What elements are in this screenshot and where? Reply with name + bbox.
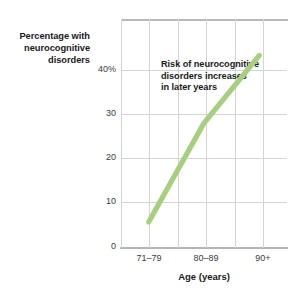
chart-annotation: Risk of neurocognitive disorders increas… (161, 59, 259, 94)
y-axis-title: Percentage with neurocognitive disorders (8, 30, 90, 67)
chart-figure: Percentage with neurocognitive disorders… (0, 0, 303, 292)
y-tick-label-20: 20 (82, 152, 116, 162)
y-tick-label-30: 30 (82, 108, 116, 118)
x-tick-label-0: 71–79 (119, 253, 179, 263)
gridline-horizontal-20 (121, 158, 287, 159)
chart-annotation-line-1: Risk of neurocognitive (161, 59, 259, 71)
gridline-vertical-2 (178, 19, 179, 248)
gridline-vertical-4 (235, 19, 236, 248)
gridline-vertical-1 (149, 19, 150, 248)
x-tick-label-1: 80–89 (176, 253, 236, 263)
gridline-vertical-5 (263, 19, 264, 248)
y-tick-label-10: 10 (82, 196, 116, 206)
y-axis-title-line-1: Percentage with (8, 30, 90, 42)
y-axis-title-line-3: disorders (8, 54, 90, 66)
y-axis-title-line-2: neurocognitive (8, 42, 90, 54)
x-axis-title: Age (years) (121, 271, 287, 282)
gridline-horizontal-10 (121, 202, 287, 203)
chart-annotation-line-2: disorders increases (161, 71, 259, 83)
y-tick-label-40: 40% (82, 64, 116, 74)
gridline-vertical-0 (121, 19, 122, 248)
chart-annotation-line-3: in later years (161, 82, 259, 94)
x-tick-label-2: 90+ (233, 253, 293, 263)
gridline-horizontal-30 (121, 114, 287, 115)
gridline-vertical-3 (206, 19, 207, 248)
y-tick-label-0: 0 (82, 241, 116, 251)
